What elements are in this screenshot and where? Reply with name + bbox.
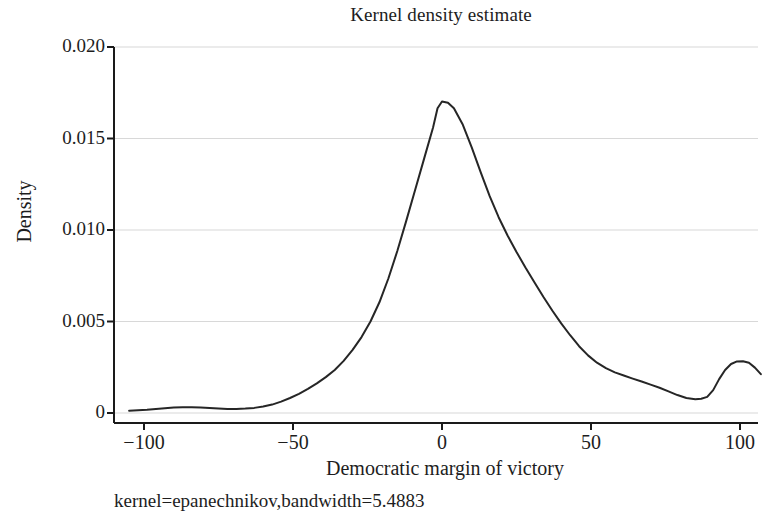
x-tick-label-2: 0	[397, 431, 487, 454]
y-tick-label-1: 0.005	[15, 310, 105, 332]
x-tick-label-4: 100	[695, 431, 766, 454]
y-tick-label-0: 0	[15, 401, 105, 423]
x-tick-label-1: −50	[248, 431, 338, 454]
y-tick-label-4: 0.020	[15, 35, 105, 57]
kernel-density-figure: Kernel density estimate Density 00.0050.…	[0, 0, 766, 521]
x-axis-title-text: Democratic margin of victory	[326, 457, 564, 479]
chart-footnote: kernel=epanechnikov,bandwidth=5.4883	[114, 490, 424, 512]
x-tick-label-3: 50	[546, 431, 636, 454]
y-tick-label-3: 0.015	[15, 127, 105, 149]
density-curve-0	[129, 102, 761, 411]
x-axis-title: Democratic margin of victory	[0, 457, 766, 480]
x-tick-label-0: −100	[99, 431, 189, 454]
y-tick-label-2: 0.010	[15, 218, 105, 240]
